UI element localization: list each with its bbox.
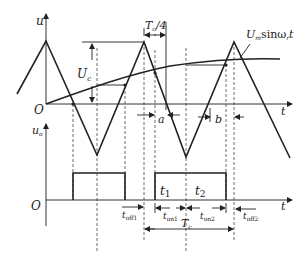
sine-label-leader: [240, 44, 250, 58]
tc4-label: Tc/4: [145, 19, 166, 32]
intersection-points: [71, 63, 227, 105]
u-axis-label: u: [36, 14, 44, 28]
uo-axis-label: uo: [32, 124, 43, 137]
pwm-diagram: Uc Tc/4 Umsinωrt a b u O t uo O t t1 t2 …: [0, 0, 302, 253]
gap-b-label: b: [215, 113, 222, 126]
t-axis-upper-label: t: [281, 105, 286, 118]
t1-label: t1: [160, 184, 171, 199]
t2-label: t2: [195, 184, 206, 199]
toff1-label: toff1: [122, 210, 137, 221]
ton1-label: ton1: [163, 211, 178, 222]
output-pulse-1: [73, 173, 125, 200]
toff2-label: toff2: [243, 211, 259, 222]
lower-axes: [46, 124, 292, 226]
t-axis-lower-label: t: [281, 200, 286, 213]
sine-label: Umsinωrt: [246, 28, 294, 41]
uc-label: Uc: [77, 67, 91, 83]
ton2-label: ton2: [200, 211, 215, 222]
period-label: Tc: [181, 217, 192, 230]
origin-lower-label: O: [31, 199, 41, 213]
origin-upper-label: O: [34, 103, 44, 117]
gap-a-label: a: [158, 113, 165, 126]
